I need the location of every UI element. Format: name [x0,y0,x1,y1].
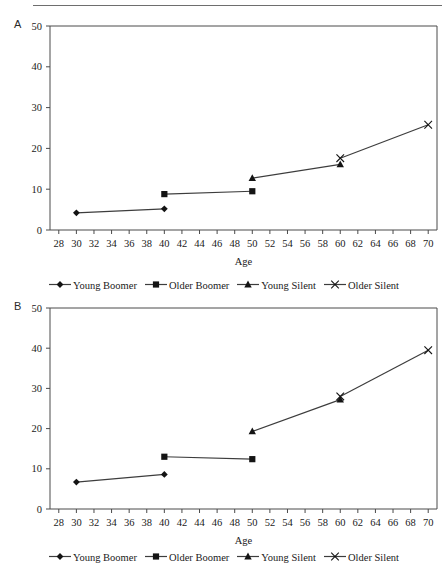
y-tick-label: 20 [32,143,43,154]
x-tick-label: 60 [335,238,346,249]
legend-item[interactable]: Young Silent [237,279,316,292]
triangle-marker-icon [237,279,259,290]
x-tick-label: 32 [89,238,100,249]
x-tick-label: 58 [317,238,328,249]
x-tick-label: 42 [177,238,188,249]
x-tick-label: 54 [282,517,293,528]
legend-marker [324,279,346,292]
legend-a: Young BoomerOlder BoomerYoung SilentOlde… [0,279,448,292]
legend-label: Older Boomer [169,552,229,563]
legend-b: Young BoomerOlder BoomerYoung SilentOlde… [0,551,448,564]
diamond-marker-icon [49,279,71,290]
cross-marker-icon [324,551,346,562]
data-point-marker [161,205,168,212]
x-tick-label: 62 [353,238,364,249]
chart-panel-b: B 01020304050283032343638404244464850525… [0,300,448,568]
series-line [76,209,164,213]
legend-label: Older Silent [348,552,399,563]
y-tick-label: 40 [32,343,43,354]
x-tick-label: 56 [300,238,311,249]
x-tick-label: 48 [229,238,240,249]
x-tick-label: 50 [247,517,258,528]
x-tick-label: 38 [142,238,153,249]
x-tick-label: 70 [423,238,434,249]
legend-label: Young Silent [261,552,316,563]
data-point-marker [161,471,168,478]
x-tick-label: 30 [71,517,82,528]
chart-panel-a: A 01020304050283032343638404244464850525… [0,18,448,280]
legend-item[interactable]: Older Boomer [145,279,229,292]
line-chart-b: 0102030405028303234363840424446485052545… [0,300,448,555]
x-tick-label: 52 [265,238,276,249]
y-tick-label: 30 [32,383,43,394]
legend-marker [145,551,167,564]
series-line [76,474,164,482]
x-tick-label: 30 [71,238,82,249]
x-tick-label: 66 [388,517,399,528]
x-tick-label: 38 [142,517,153,528]
cross-marker-icon [324,279,346,290]
legend-label: Young Boomer [73,552,137,563]
x-axis-title: Age [235,256,253,267]
y-tick-label: 0 [37,225,42,236]
diamond-marker-icon [49,551,71,562]
x-tick-label: 46 [212,517,223,528]
x-tick-label: 56 [300,517,311,528]
y-tick-label: 50 [32,303,43,314]
x-axis-title: Age [235,535,253,546]
y-tick-label: 10 [32,463,43,474]
header-rule [33,5,442,6]
y-tick-label: 50 [32,21,43,32]
x-tick-label: 46 [212,238,223,249]
legend-item[interactable]: Older Boomer [145,551,229,564]
square-marker-icon [145,279,167,290]
data-point-marker [424,346,432,354]
x-tick-label: 52 [265,517,276,528]
data-point-marker [161,191,167,197]
y-tick-label: 0 [37,504,42,515]
series-line [340,125,428,158]
x-tick-label: 44 [194,517,205,528]
x-tick-label: 40 [159,517,170,528]
legend-label: Older Silent [348,280,399,291]
x-tick-label: 28 [54,238,65,249]
plot-area-a: 0102030405028303234363840424446485052545… [0,18,448,276]
legend-item[interactable]: Young Boomer [49,279,137,292]
legend-item[interactable]: Young Silent [237,551,316,564]
y-tick-label: 10 [32,184,43,195]
legend-item[interactable]: Older Silent [324,551,399,564]
series-line [252,400,340,432]
legend-marker [324,551,346,564]
legend-label: Young Silent [261,280,316,291]
x-tick-label: 34 [106,517,117,528]
y-tick-label: 30 [32,102,43,113]
legend-marker [49,551,71,564]
x-tick-label: 44 [194,238,205,249]
y-tick-label: 40 [32,61,43,72]
series-line [340,350,428,396]
x-tick-label: 34 [106,238,117,249]
x-tick-label: 36 [124,238,135,249]
series-line [164,457,252,459]
y-tick-label: 20 [32,423,43,434]
x-tick-label: 50 [247,238,258,249]
x-tick-label: 70 [423,517,434,528]
legend-marker [145,279,167,292]
x-tick-label: 62 [353,517,364,528]
x-tick-label: 68 [405,517,416,528]
legend-item[interactable]: Young Boomer [49,551,137,564]
data-point-marker [249,456,255,462]
x-tick-label: 60 [335,517,346,528]
x-tick-label: 64 [370,517,381,528]
legend-marker [237,551,259,564]
legend-label: Older Boomer [169,280,229,291]
triangle-marker-icon [237,551,259,562]
data-point-marker [424,121,432,129]
data-point-marker [249,188,255,194]
legend-marker [237,279,259,292]
legend-item[interactable]: Older Silent [324,279,399,292]
x-tick-label: 68 [405,238,416,249]
series-line [164,191,252,194]
data-point-marker [73,209,80,216]
x-tick-label: 28 [54,517,65,528]
